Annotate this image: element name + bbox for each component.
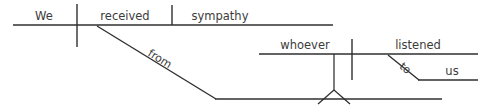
word-subordinate-subject-whoever: whoever bbox=[280, 38, 330, 52]
diagram-canvas: We received sympathy from whoever listen… bbox=[0, 0, 492, 108]
noun-clause-fork-left bbox=[318, 90, 334, 104]
word-verb-received: received bbox=[100, 9, 149, 23]
word-preposition-from: from bbox=[146, 47, 175, 71]
sentence-diagram: We received sympathy from whoever listen… bbox=[0, 0, 492, 108]
word-subordinate-verb-listened: listened bbox=[395, 38, 441, 52]
noun-clause-fork-right bbox=[334, 90, 350, 104]
word-subject-we: We bbox=[35, 9, 53, 23]
word-object-us: us bbox=[445, 64, 458, 78]
word-object-sympathy: sympathy bbox=[192, 9, 249, 23]
